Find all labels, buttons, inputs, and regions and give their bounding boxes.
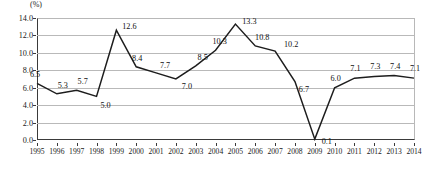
x-axis-tick-label: 2001: [148, 147, 163, 156]
x-axis-tick-label: 2000: [129, 147, 144, 156]
y-axis-unit-label: (%): [30, 0, 42, 9]
data-point-label: 6.7: [299, 84, 309, 93]
data-point-label: 10.8: [255, 32, 269, 41]
x-axis-tick-label: 2004: [208, 147, 223, 156]
data-point-label: 7.1: [350, 64, 360, 73]
data-point-label: 10.3: [212, 37, 226, 46]
x-axis-tick-mark: [77, 143, 78, 146]
x-axis-tick-mark: [156, 143, 157, 146]
x-axis-tick-label: 1999: [109, 147, 124, 156]
x-axis-tick-label: 1995: [29, 147, 44, 156]
x-axis-tick-mark: [295, 143, 296, 146]
y-axis-tick-label: 12.0: [19, 31, 33, 40]
x-axis-tick-mark: [315, 143, 316, 146]
y-axis-tick-mark: [33, 88, 36, 89]
data-point-label: 12.6: [122, 22, 136, 31]
y-axis-labels: 0.02.04.06.08.010.012.014.0: [0, 18, 33, 140]
y-axis-tick-label: 4.0: [23, 101, 33, 110]
x-axis-tick-mark: [235, 143, 236, 146]
x-axis-tick-mark: [136, 143, 137, 146]
x-axis-tick-label: 2009: [307, 147, 322, 156]
data-point-label: 7.4: [390, 61, 400, 70]
data-point-label: 7.1: [410, 64, 420, 73]
x-axis-tick-mark: [216, 143, 217, 146]
x-axis-tick-mark: [374, 143, 375, 146]
y-axis-tick-mark: [33, 53, 36, 54]
x-axis-tick-mark: [354, 143, 355, 146]
y-axis-tick-label: 6.0: [23, 83, 33, 92]
data-point-label: 5.7: [78, 77, 88, 86]
x-axis-tick-label: 2013: [387, 147, 402, 156]
x-axis-tick-mark: [116, 143, 117, 146]
y-axis-tick-label: 14.0: [19, 14, 33, 23]
x-axis-tick-mark: [414, 143, 415, 146]
x-axis-tick-label: 2011: [347, 147, 362, 156]
y-axis-tick-label: 0.0: [23, 136, 33, 145]
data-point-label: 6.5: [30, 70, 40, 79]
x-axis-tick-mark: [97, 143, 98, 146]
x-axis-tick-mark: [37, 143, 38, 146]
x-axis-tick-label: 1998: [89, 147, 104, 156]
data-point-label: 8.4: [132, 53, 142, 62]
x-axis-tick-mark: [176, 143, 177, 146]
y-axis-tick-mark: [33, 140, 36, 141]
x-axis-tick-mark: [335, 143, 336, 146]
x-axis-tick-label: 2007: [268, 147, 283, 156]
y-axis-tick-mark: [33, 35, 36, 36]
y-axis-tick-mark: [33, 105, 36, 106]
x-axis-tick-label: 2010: [327, 147, 342, 156]
x-axis-tick-label: 2006: [248, 147, 263, 156]
y-axis-tick-label: 10.0: [19, 48, 33, 57]
y-axis-tick-mark: [33, 123, 36, 124]
x-axis-tick-label: 2012: [367, 147, 382, 156]
x-axis-tick-label: 2002: [168, 147, 183, 156]
x-axis-tick-mark: [255, 143, 256, 146]
data-point-label: 5.0: [100, 101, 110, 110]
x-axis-tick-mark: [57, 143, 58, 146]
data-point-label: 8.5: [198, 52, 208, 61]
data-point-label: 6.0: [331, 73, 341, 82]
data-point-label: 5.3: [58, 80, 68, 89]
x-axis-tick-mark: [196, 143, 197, 146]
data-point-label: 7.3: [370, 62, 380, 71]
y-axis-tick-mark: [33, 18, 36, 19]
x-axis-labels: 1995199619971998199920002001200220032004…: [37, 143, 415, 159]
data-point-label: 7.7: [160, 60, 170, 69]
line-chart: (%) 0.02.04.06.08.010.012.014.0 6.55.35.…: [0, 0, 423, 169]
x-axis-tick-label: 2003: [188, 147, 203, 156]
plot-area: 6.55.35.75.012.68.47.77.08.510.313.310.8…: [37, 18, 415, 140]
data-point-label: 10.2: [284, 40, 298, 49]
x-axis-tick-mark: [394, 143, 395, 146]
x-axis-tick-label: 1996: [49, 147, 64, 156]
data-point-label: 13.3: [242, 17, 256, 26]
x-axis-tick-mark: [275, 143, 276, 146]
x-axis-tick-label: 2005: [228, 147, 243, 156]
x-axis-tick-label: 1997: [69, 147, 84, 156]
x-axis-tick-label: 2008: [287, 147, 302, 156]
y-axis-tick-label: 2.0: [23, 118, 33, 127]
x-axis-tick-label: 2014: [406, 147, 421, 156]
data-point-label: 7.0: [182, 82, 192, 91]
